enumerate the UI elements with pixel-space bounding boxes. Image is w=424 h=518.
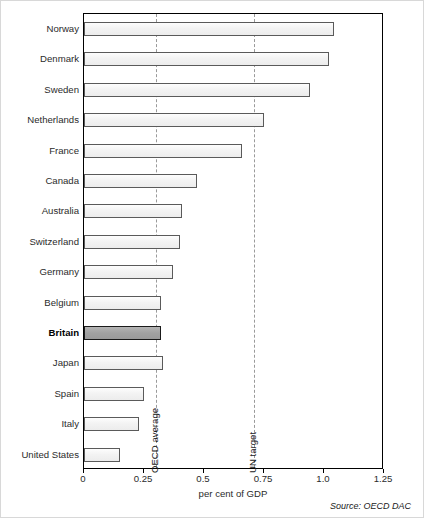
bar-belgium[interactable] bbox=[84, 296, 161, 310]
bar-united-states[interactable] bbox=[84, 448, 120, 462]
x-tick-label: 0.25 bbox=[134, 473, 153, 484]
category-label-germany: Germany bbox=[1, 266, 79, 277]
bar-row bbox=[84, 44, 382, 74]
x-axis-title: per cent of GDP bbox=[83, 488, 383, 499]
bar-japan[interactable] bbox=[84, 356, 163, 370]
category-label-netherlands: Netherlands bbox=[1, 114, 79, 125]
category-label-belgium: Belgium bbox=[1, 297, 79, 308]
x-tick-label: 0 bbox=[80, 473, 85, 484]
bar-row bbox=[84, 136, 382, 166]
x-tick-label: 0.75 bbox=[254, 473, 273, 484]
bar-sweden[interactable] bbox=[84, 83, 310, 97]
bar-australia[interactable] bbox=[84, 204, 182, 218]
category-label-switzerland: Switzerland bbox=[1, 236, 79, 247]
category-axis: NorwayDenmarkSwedenNetherlandsFranceCana… bbox=[1, 13, 79, 469]
x-axis: 00.250.50.751.01.25 bbox=[83, 469, 383, 485]
category-label-sweden: Sweden bbox=[1, 84, 79, 95]
bar-row bbox=[84, 14, 382, 44]
bar-row bbox=[84, 166, 382, 196]
category-label-united-states: United States bbox=[1, 449, 79, 460]
bar-norway[interactable] bbox=[84, 22, 334, 36]
bar-row bbox=[84, 227, 382, 257]
bar-italy[interactable] bbox=[84, 417, 139, 431]
bar-row bbox=[84, 288, 382, 318]
category-label-britain: Britain bbox=[1, 327, 79, 338]
bar-row bbox=[84, 196, 382, 226]
category-label-italy: Italy bbox=[1, 418, 79, 429]
category-label-australia: Australia bbox=[1, 205, 79, 216]
x-tick-label: 0.5 bbox=[196, 473, 209, 484]
bar-spain[interactable] bbox=[84, 387, 144, 401]
category-label-france: France bbox=[1, 145, 79, 156]
bar-row bbox=[84, 440, 382, 470]
bar-row bbox=[84, 257, 382, 287]
source-note: Source: OECD DAC bbox=[330, 501, 411, 511]
bar-row bbox=[84, 348, 382, 378]
chart-figure: NorwayDenmarkSwedenNetherlandsFranceCana… bbox=[0, 0, 424, 518]
category-label-canada: Canada bbox=[1, 175, 79, 186]
bar-row bbox=[84, 379, 382, 409]
bar-netherlands[interactable] bbox=[84, 113, 264, 127]
bar-row bbox=[84, 75, 382, 105]
category-label-norway: Norway bbox=[1, 23, 79, 34]
bar-france[interactable] bbox=[84, 144, 242, 158]
plot-area: OECD averageUN target bbox=[83, 13, 383, 469]
category-label-denmark: Denmark bbox=[1, 53, 79, 64]
x-tick-label: 1.25 bbox=[374, 473, 393, 484]
x-tick-label: 1.0 bbox=[316, 473, 329, 484]
category-label-japan: Japan bbox=[1, 357, 79, 368]
bar-row bbox=[84, 105, 382, 135]
bar-germany[interactable] bbox=[84, 265, 173, 279]
bar-row bbox=[84, 409, 382, 439]
bar-switzerland[interactable] bbox=[84, 235, 180, 249]
bar-denmark[interactable] bbox=[84, 52, 329, 66]
bar-row bbox=[84, 318, 382, 348]
bar-canada[interactable] bbox=[84, 174, 197, 188]
bar-britain[interactable] bbox=[84, 326, 161, 340]
category-label-spain: Spain bbox=[1, 388, 79, 399]
